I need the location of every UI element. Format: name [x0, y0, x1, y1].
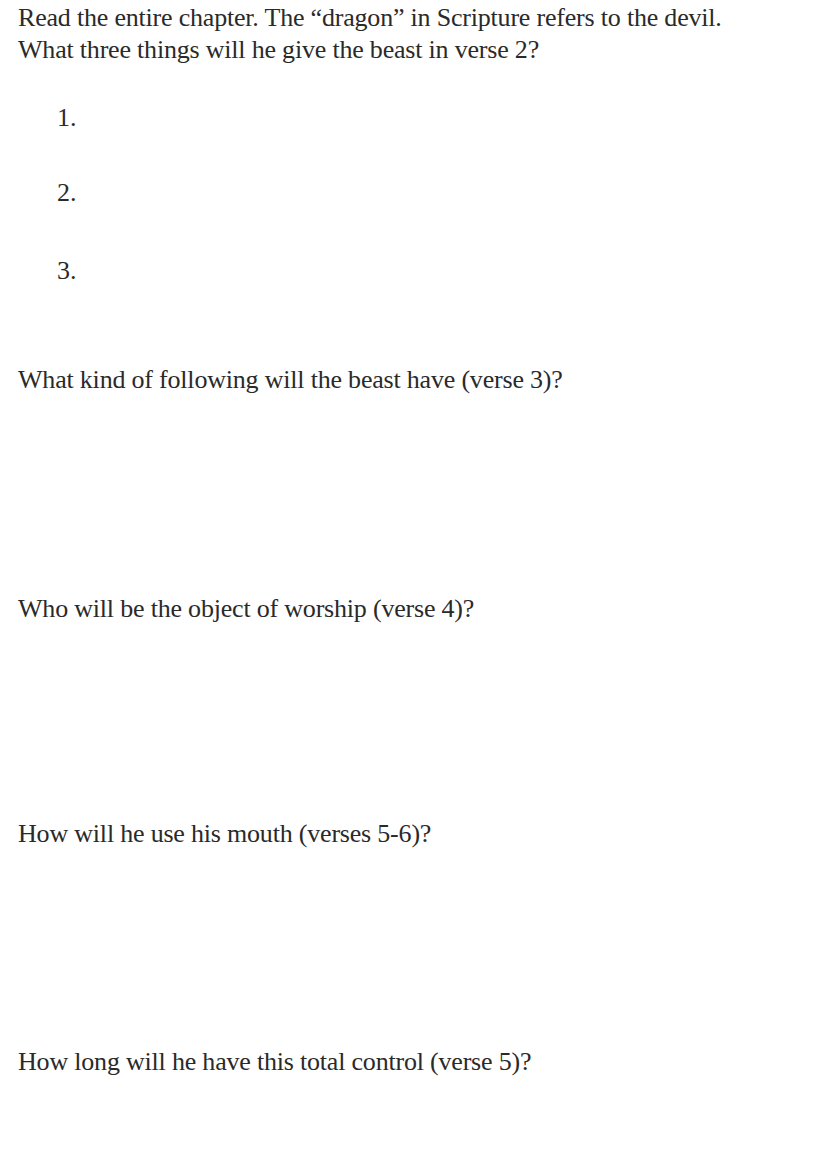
answer-space-object-of-worship[interactable] — [18, 634, 818, 804]
question-duration-of-control: How long will he have this total control… — [18, 1046, 531, 1078]
answer-space-use-of-mouth[interactable] — [18, 859, 818, 1029]
answer-space-3[interactable] — [90, 255, 790, 295]
answer-space-2[interactable] — [90, 177, 790, 217]
answer-space-1[interactable] — [90, 102, 790, 142]
answer-space-following[interactable] — [18, 405, 818, 575]
intro-paragraph: Read the entire chapter. The “dragon” in… — [18, 2, 722, 66]
intro-line-1: Read the entire chapter. The “dragon” in… — [18, 2, 722, 34]
question-following: What kind of following will the beast ha… — [18, 364, 563, 396]
question-object-of-worship: Who will be the object of worship (verse… — [18, 593, 474, 625]
list-item-number-1: 1. — [57, 102, 77, 134]
intro-line-2: What three things will he give the beast… — [18, 34, 722, 66]
answer-space-duration-of-control[interactable] — [18, 1087, 818, 1162]
question-use-of-mouth: How will he use his mouth (verses 5-6)? — [18, 818, 431, 850]
list-item-number-2: 2. — [57, 177, 77, 209]
list-item-number-3: 3. — [57, 255, 77, 287]
